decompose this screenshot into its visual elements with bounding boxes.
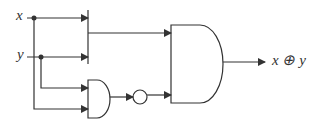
input-label-y: y — [17, 47, 24, 62]
wire-x-to-and — [34, 18, 88, 109]
not-gate-bubble — [133, 90, 147, 104]
wire-y-to-and — [41, 57, 88, 88]
and-gate-small — [88, 80, 110, 118]
xor-circuit-diagram: x y x ⊕ y — [0, 0, 320, 125]
output-label: x ⊕ y — [272, 53, 306, 68]
and-gate-large — [171, 25, 223, 103]
junction-x — [32, 16, 37, 21]
input-label-x: x — [16, 8, 23, 23]
junction-y — [39, 55, 44, 60]
